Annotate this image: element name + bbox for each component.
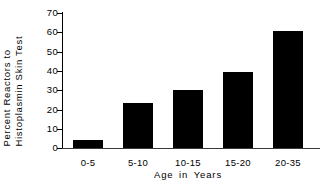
x-axis-title: Age in Years — [63, 170, 313, 180]
y-tick-label: 40 — [36, 66, 58, 76]
y-axis-title-line-1: Percent Reactors to — [2, 49, 12, 146]
x-tick-label: 5-10 — [128, 157, 148, 168]
y-axis-tick — [57, 32, 62, 33]
y-axis-tick — [57, 148, 62, 149]
x-tick-label: 15-20 — [225, 157, 251, 168]
y-axis-tick — [57, 52, 62, 53]
y-tick-label: 20 — [36, 105, 58, 115]
plot-area — [63, 12, 313, 148]
x-axis-tick-labels: 0-5 5-10 10-15 15-20 20-35 — [63, 152, 313, 170]
x-tick-label: 20-35 — [275, 157, 301, 168]
y-tick-label: 10 — [36, 124, 58, 134]
y-tick-label: 70 — [36, 8, 58, 18]
x-tick-slot: 10-15 — [163, 152, 213, 170]
x-tick-label: 10-15 — [175, 157, 201, 168]
bar-slot — [213, 12, 263, 148]
y-tick-label: 50 — [36, 47, 58, 57]
bar-0-5 — [73, 140, 103, 148]
bar-20-35 — [273, 31, 303, 148]
y-axis-tick — [57, 110, 62, 111]
y-axis-tick-labels: 70 60 50 40 30 20 10 0 — [36, 0, 58, 190]
x-tick-label: 0-5 — [81, 157, 96, 168]
y-axis-tick — [57, 71, 62, 72]
bar-slot — [63, 12, 113, 148]
y-axis-title: Percent Reactors to Histoplasmin Skin Te… — [2, 0, 32, 152]
bar-slot — [163, 12, 213, 148]
y-axis-tick — [57, 90, 62, 91]
y-tick-label: 30 — [36, 85, 58, 95]
x-tick-slot: 0-5 — [63, 152, 113, 170]
bar-slot — [263, 12, 313, 148]
y-axis-tick — [57, 13, 62, 14]
bar-chart-figure: Percent Reactors to Histoplasmin Skin Te… — [0, 0, 323, 190]
x-tick-slot: 5-10 — [113, 152, 163, 170]
y-axis-title-line-2: Histoplasmin Skin Test — [14, 35, 24, 146]
y-tick-label: 60 — [36, 27, 58, 37]
bar-series — [63, 12, 313, 148]
x-tick-slot: 15-20 — [213, 152, 263, 170]
bar-10-15 — [173, 90, 203, 148]
bar-15-20 — [223, 72, 253, 148]
x-tick-slot: 20-35 — [263, 152, 313, 170]
y-axis-tick — [57, 129, 62, 130]
bar-5-10 — [123, 103, 153, 148]
y-tick-label: 0 — [36, 143, 58, 153]
bar-slot — [113, 12, 163, 148]
x-axis-line — [62, 148, 320, 149]
